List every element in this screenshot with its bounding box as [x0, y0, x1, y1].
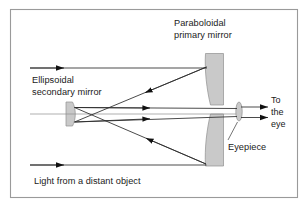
primary-mirror-label-line1: Paraboloidal [174, 18, 226, 28]
secondary-to-eyepiece-upper-arrow [75, 108, 151, 109]
eyepiece-lens [236, 102, 242, 121]
telescope-diagram: Paraboloidal primary mirror Ellipsoidal … [0, 0, 307, 208]
caption-light-from-distant-object: Light from a distant object [34, 176, 141, 186]
to-the-eye-label-line1: To [271, 95, 281, 105]
primary-mirror-label-line2: primary mirror [174, 30, 232, 40]
secondary-mirror-label-line2: secondary mirror [32, 87, 102, 97]
to-the-eye-label-line3: eye [271, 119, 286, 129]
eyepiece-label: Eyepiece [228, 142, 266, 152]
to-the-eye-label-line2: the [271, 107, 284, 117]
secondary-mirror-label-line1: Ellipsoidal [32, 75, 74, 85]
